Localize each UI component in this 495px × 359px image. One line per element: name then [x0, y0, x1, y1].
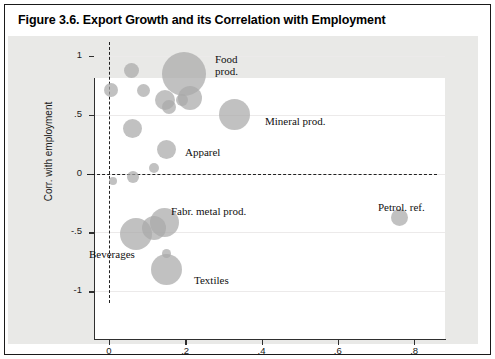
x-tick-label: 0	[94, 345, 124, 356]
y-tick-label: -.5	[60, 225, 82, 236]
x-tick-label: .6	[323, 345, 353, 356]
plot-region: 1.50-.5-1 0.2.4.6.8 Food prod.Mineral pr…	[8, 36, 478, 344]
data-bubble	[120, 218, 152, 250]
y-tick-mark	[89, 291, 94, 292]
y-tick-label: .5	[60, 108, 82, 119]
data-point-label: Beverages	[89, 248, 135, 260]
reference-line-vertical	[109, 42, 110, 303]
y-tick-label: -1	[60, 284, 82, 295]
data-point-label: Food prod.	[215, 53, 238, 78]
data-bubble	[151, 254, 182, 285]
x-tick-label: .2	[170, 345, 200, 356]
y-tick-label: 0	[60, 167, 82, 178]
data-point-label: Textiles	[194, 274, 229, 286]
figure-title: Figure 3.6. Export Growth and its Correl…	[18, 13, 386, 27]
data-point-label: Fabr. metal prod.	[171, 205, 246, 217]
data-point-label: Petrol. ref.	[378, 201, 425, 213]
data-bubble	[123, 119, 142, 138]
gridline-horizontal	[95, 56, 445, 57]
reference-line-horizontal	[87, 174, 437, 175]
figure-container: Figure 3.6. Export Growth and its Correl…	[0, 0, 495, 359]
data-bubble	[176, 94, 188, 106]
gridline-horizontal	[95, 291, 445, 292]
x-tick-label: .8	[399, 345, 429, 356]
y-tick-mark	[89, 115, 94, 116]
data-point-label: Mineral prod.	[265, 115, 325, 127]
data-bubble	[124, 63, 139, 78]
y-tick-label: 1	[60, 49, 82, 60]
y-axis-line	[94, 78, 95, 340]
data-point-label: Apparel	[185, 146, 220, 158]
x-axis-line	[94, 339, 446, 340]
y-tick-mark	[89, 56, 94, 57]
y-tick-mark	[89, 232, 94, 233]
y-axis-title: Corr. with employment	[43, 67, 54, 237]
x-tick-label: .4	[247, 345, 277, 356]
figure-title-bar: Figure 3.6. Export Growth and its Correl…	[6, 6, 489, 34]
data-bubble	[104, 83, 118, 97]
data-bubble	[127, 171, 139, 183]
